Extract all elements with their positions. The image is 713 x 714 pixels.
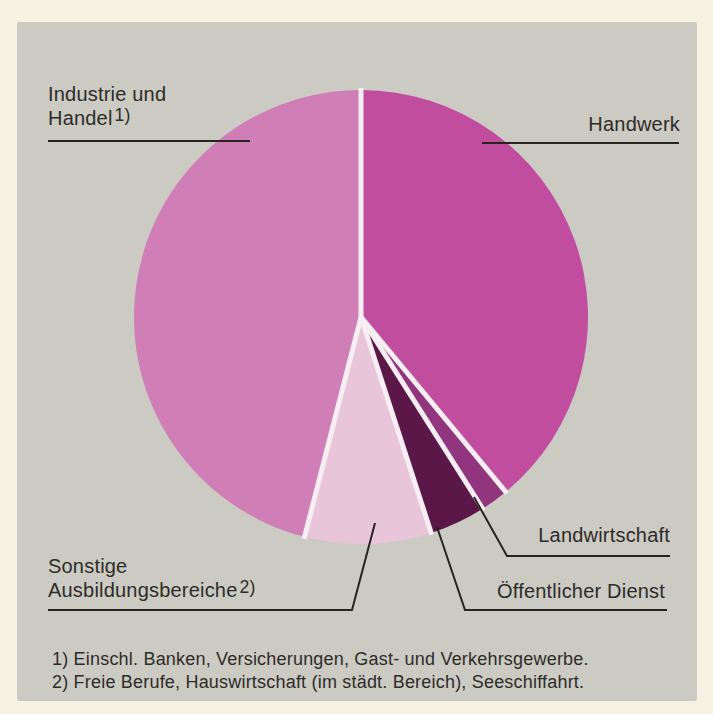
label-sonstige-ausbildungsbereiche: Sonstige Ausbildungsbereiche2): [48, 554, 256, 603]
label-oeffentlicher-dienst: Öffentlicher Dienst: [497, 579, 665, 603]
scanned-book-page: Industrie und Handel1) Handwerk Landwirt…: [0, 0, 713, 714]
label-industrie-line2: Handel: [48, 107, 113, 129]
label-landwirtschaft: Landwirtschaft: [538, 523, 670, 547]
footnote-ref-2: 2): [239, 577, 255, 597]
footnote-2: 2) Freie Berufe, Hauswirtschaft (im städ…: [52, 671, 589, 694]
label-sonstige-line2: Ausbildungsbereiche: [48, 579, 237, 601]
label-handwerk: Handwerk: [588, 112, 680, 136]
label-sonstige-line1: Sonstige: [48, 555, 127, 577]
label-industrie-line1: Industrie und: [48, 83, 166, 105]
label-industrie-und-handel: Industrie und Handel1): [48, 82, 166, 131]
footnote-1: 1) Einschl. Banken, Versicherungen, Gast…: [52, 648, 589, 671]
footnote-ref-1: 1): [115, 105, 131, 125]
footnotes-block: 1) Einschl. Banken, Versicherungen, Gast…: [52, 648, 589, 694]
